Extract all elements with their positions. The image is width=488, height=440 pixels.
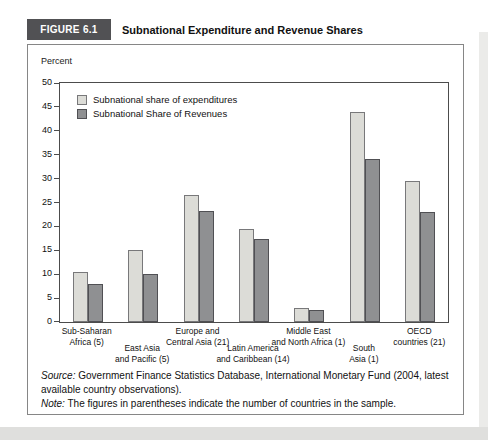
- y-tick-label: 20: [24, 220, 52, 230]
- source-prefix: Source:: [41, 370, 75, 381]
- bar-expenditures: [128, 250, 143, 322]
- page-edge-shadow-bottom: [0, 427, 488, 440]
- x-axis-label: OECD countries (21): [374, 326, 464, 348]
- y-tick-label: 10: [24, 268, 52, 278]
- bar-revenues: [254, 239, 269, 322]
- y-tick-mark: [54, 298, 60, 299]
- figure-number-label: FIGURE 6.1: [40, 24, 97, 35]
- y-tick-mark: [54, 106, 60, 107]
- y-tick-mark: [54, 130, 60, 131]
- note-text: The figures in parentheses indicate the …: [65, 398, 396, 409]
- y-tick-label: 5: [24, 292, 52, 302]
- y-tick-mark: [54, 83, 60, 84]
- bar-group: [128, 250, 158, 322]
- figure-title: Subnational Expenditure and Revenue Shar…: [122, 24, 363, 36]
- figure-number-badge: FIGURE 6.1: [27, 19, 111, 40]
- y-tick-label: 30: [24, 173, 52, 183]
- y-tick-mark: [54, 274, 60, 275]
- y-tick-label: 15: [24, 244, 52, 254]
- bar-revenues: [420, 212, 435, 322]
- bar-group: [239, 229, 269, 322]
- bar-revenues: [309, 310, 324, 322]
- bar-expenditures: [73, 272, 88, 322]
- page-edge-shadow-right: [479, 32, 488, 440]
- y-tick-mark: [54, 226, 60, 227]
- page: FIGURE 6.1 Subnational Expenditure and R…: [0, 0, 488, 440]
- y-tick-mark: [54, 250, 60, 251]
- y-tick-label: 45: [24, 101, 52, 111]
- legend: Subnational share of expenditures Subnat…: [77, 94, 237, 122]
- legend-swatch-expenditures-icon: [77, 95, 87, 105]
- bar-revenues: [365, 159, 380, 322]
- bar-group: [294, 308, 324, 322]
- bar-group: [405, 181, 435, 322]
- figure-content-box: Percent Subnational share of expenditure…: [27, 44, 464, 415]
- legend-label-revenues: Subnational Share of Revenues: [93, 108, 227, 119]
- y-tick-mark: [54, 154, 60, 155]
- legend-item-expenditures: Subnational share of expenditures: [77, 94, 237, 105]
- y-tick-mark: [54, 178, 60, 179]
- bar-expenditures: [405, 181, 420, 322]
- bar-expenditures: [294, 308, 309, 322]
- y-tick-label: 40: [24, 125, 52, 135]
- y-tick-mark: [54, 321, 60, 322]
- bar-revenues: [88, 284, 103, 322]
- legend-swatch-revenues-icon: [77, 109, 87, 119]
- source-text: Government Finance Statistics Database, …: [41, 370, 448, 395]
- legend-label-expenditures: Subnational share of expenditures: [93, 94, 237, 105]
- note-line: Note: The figures in parentheses indicat…: [41, 397, 455, 411]
- legend-item-revenues: Subnational Share of Revenues: [77, 108, 237, 119]
- bar-expenditures: [184, 195, 199, 322]
- note-prefix: Note:: [41, 398, 65, 409]
- y-tick-mark: [54, 202, 60, 203]
- bar-group: [350, 112, 380, 322]
- y-tick-label: 25: [24, 197, 52, 207]
- plot-area: Subnational share of expenditures Subnat…: [59, 82, 449, 323]
- y-tick-label: 50: [24, 77, 52, 87]
- bar-expenditures: [239, 229, 254, 322]
- y-tick-label: 0: [24, 316, 52, 326]
- y-tick-label: 35: [24, 149, 52, 159]
- bar-group: [73, 272, 103, 322]
- figure-notes: Source: Government Finance Statistics Da…: [41, 369, 455, 412]
- bar-expenditures: [350, 112, 365, 322]
- y-axis-title: Percent: [41, 56, 72, 66]
- bar-revenues: [199, 211, 214, 322]
- bar-group: [184, 195, 214, 322]
- source-line: Source: Government Finance Statistics Da…: [41, 369, 455, 397]
- bar-revenues: [143, 274, 158, 322]
